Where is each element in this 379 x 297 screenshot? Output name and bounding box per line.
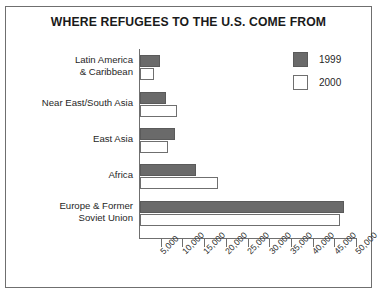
bar-east-asia-2000 — [140, 141, 168, 153]
bar-latin-america-2000 — [140, 68, 154, 80]
bar-africa-2000 — [140, 177, 218, 189]
x-tick-label-5000: 5,000 — [158, 233, 181, 256]
category-label-line1: Europe & Former — [59, 200, 133, 212]
plot-area: 5,000 10,000 15,000 20,000 25,000 30,000… — [139, 49, 356, 239]
category-label-line1: Near East/South Asia — [42, 97, 133, 109]
bar-europe-1999 — [140, 201, 344, 213]
category-label-east-asia: East Asia — [93, 133, 133, 145]
x-tick-label-30000: 30,000 — [267, 230, 293, 256]
bar-africa-1999 — [140, 164, 196, 176]
bar-latin-america-1999 — [140, 55, 160, 67]
x-tick-label-25000: 25,000 — [245, 230, 271, 256]
bar-europe-2000 — [140, 214, 340, 226]
x-tick-label-45000: 45,000 — [332, 230, 358, 256]
category-label-line1: East Asia — [93, 133, 133, 145]
category-label-europe: Europe & Former Soviet Union — [59, 200, 133, 223]
bar-east-asia-1999 — [140, 128, 175, 140]
x-tick-label-40000: 40,000 — [310, 230, 336, 256]
bar-near-east-2000 — [140, 105, 177, 117]
x-tick-label-50000: 50,000 — [353, 230, 379, 256]
category-label-line1: Latin America — [75, 54, 133, 66]
category-label-line2: Soviet Union — [59, 212, 133, 224]
bar-near-east-1999 — [140, 92, 166, 104]
category-label-africa: Africa — [108, 169, 133, 181]
chart-figure: WHERE REFUGEES TO THE U.S. COME FROM 199… — [5, 6, 372, 288]
x-tick-label-15000: 15,000 — [201, 230, 227, 256]
category-label-latin-america: Latin America & Caribbean — [75, 54, 133, 77]
chart-title: WHERE REFUGEES TO THE U.S. COME FROM — [6, 15, 371, 29]
x-tick-label-20000: 20,000 — [223, 230, 249, 256]
x-tick-label-35000: 35,000 — [288, 230, 314, 256]
x-tick-label-10000: 10,000 — [180, 230, 206, 256]
category-label-near-east: Near East/South Asia — [42, 97, 133, 109]
category-label-line2: & Caribbean — [75, 66, 133, 78]
category-label-line1: Africa — [108, 169, 133, 181]
